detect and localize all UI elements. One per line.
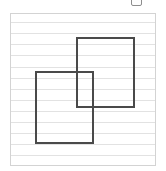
cut-off-marker-icon (131, 0, 142, 6)
ruled-paper-panel (10, 13, 156, 166)
lower-left-rectangle[interactable] (35, 71, 94, 144)
shapes-layer (11, 14, 155, 165)
